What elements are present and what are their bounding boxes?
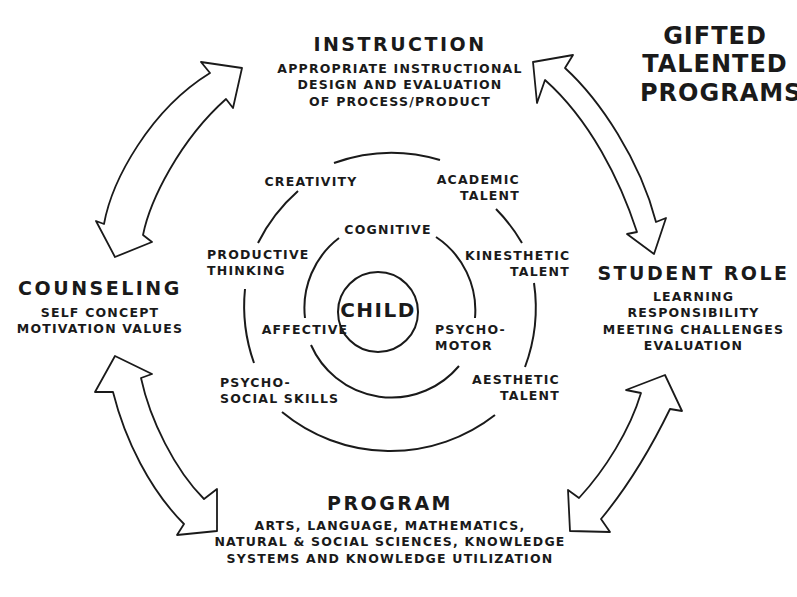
- node-text: SOCIAL SKILLS: [220, 391, 340, 407]
- instruction-detail: DESIGN AND EVALUATION: [250, 77, 550, 94]
- node-text: PSYCHO-: [435, 322, 515, 338]
- program-detail: SYSTEMS AND KNOWLEDGE UTILIZATION: [200, 551, 580, 568]
- arrow-student-role-program: [568, 375, 682, 532]
- student-role-detail: LEARNING: [590, 289, 797, 306]
- node-text: THINKING: [207, 263, 317, 279]
- node-text: MOTOR: [435, 338, 515, 354]
- instruction-detail: OF PROCESS/PRODUCT: [250, 94, 550, 111]
- node-academic-talent: ACADEMIC TALENT: [420, 172, 520, 205]
- student-role-heading: STUDENT ROLE: [590, 262, 797, 286]
- node-text: PRODUCTIVE: [207, 247, 317, 263]
- node-affective: AFFECTIVE: [260, 322, 350, 338]
- component-student-role: STUDENT ROLE LEARNING RESPONSIBILITY MEE…: [590, 262, 797, 355]
- node-text: KINESTHETIC: [465, 248, 570, 264]
- arrow-counseling-instruction: [96, 62, 242, 257]
- node-text: COGNITIVE: [338, 222, 438, 238]
- node-text: TALENT: [470, 388, 560, 404]
- node-text: CREATIVITY: [256, 174, 366, 190]
- node-aesthetic-talent: AESTHETIC TALENT: [470, 372, 560, 405]
- center-child-label: CHILD: [338, 298, 418, 323]
- counseling-detail: MOTIVATION VALUES: [10, 321, 190, 338]
- component-program: PROGRAM ARTS, LANGUAGE, MATHEMATICS, NAT…: [200, 492, 580, 567]
- node-psycho-social-skills: PSYCHO- SOCIAL SKILLS: [220, 375, 340, 408]
- title-line: PROGRAMS: [640, 79, 790, 107]
- counseling-heading: COUNSELING: [10, 277, 190, 301]
- node-cognitive: COGNITIVE: [338, 222, 438, 238]
- program-detail: ARTS, LANGUAGE, MATHEMATICS,: [200, 518, 580, 535]
- node-psychomotor: PSYCHO- MOTOR: [435, 322, 515, 355]
- arrow-program-counseling: [95, 356, 217, 535]
- title-line: TALENTED: [640, 50, 790, 78]
- node-text: PSYCHO-: [220, 375, 340, 391]
- gifted-talented-diagram: GIFTED TALENTED PROGRAMS INSTRUCTION APP…: [0, 0, 797, 597]
- counseling-detail: SELF CONCEPT: [10, 305, 190, 322]
- student-role-detail: EVALUATION: [590, 338, 797, 355]
- student-role-detail: MEETING CHALLENGES: [590, 322, 797, 339]
- title-gifted-talented-programs: GIFTED TALENTED PROGRAMS: [640, 22, 790, 107]
- program-detail: NATURAL & SOCIAL SCIENCES, KNOWLEDGE: [200, 534, 580, 551]
- node-text: AFFECTIVE: [260, 322, 350, 338]
- program-heading: PROGRAM: [200, 492, 580, 516]
- node-productive-thinking: PRODUCTIVE THINKING: [207, 247, 317, 280]
- component-instruction: INSTRUCTION APPROPRIATE INSTRUCTIONAL DE…: [250, 33, 550, 110]
- node-text: AESTHETIC: [470, 372, 560, 388]
- child-text: CHILD: [338, 298, 418, 323]
- node-kinesthetic-talent: KINESTHETIC TALENT: [465, 248, 570, 281]
- node-text: ACADEMIC: [420, 172, 520, 188]
- title-line: GIFTED: [640, 22, 790, 50]
- node-text: TALENT: [465, 264, 570, 280]
- node-creativity: CREATIVITY: [256, 174, 366, 190]
- component-counseling: COUNSELING SELF CONCEPT MOTIVATION VALUE…: [10, 277, 190, 338]
- student-role-detail: RESPONSIBILITY: [590, 305, 797, 322]
- instruction-detail: APPROPRIATE INSTRUCTIONAL: [250, 61, 550, 78]
- instruction-heading: INSTRUCTION: [250, 33, 550, 57]
- node-text: TALENT: [420, 188, 520, 204]
